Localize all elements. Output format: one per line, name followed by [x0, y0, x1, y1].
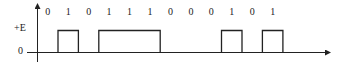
bit-label: 1: [147, 7, 152, 17]
high-level-label: +E: [14, 23, 26, 33]
bit-label: 1: [107, 7, 112, 17]
bit-label: 1: [270, 7, 275, 17]
bit-label: 0: [209, 7, 214, 17]
waveform-diagram: +E 0 010111000101: [0, 0, 341, 66]
signal-waveform: [58, 31, 283, 53]
bit-label: 0: [250, 7, 255, 17]
bit-label: 1: [66, 7, 71, 17]
bit-label: 1: [229, 7, 234, 17]
bit-label: 0: [188, 7, 193, 17]
bit-label: 0: [168, 7, 173, 17]
bit-label: 0: [45, 7, 50, 17]
bit-label: 1: [127, 7, 132, 17]
zero-level-label: 0: [18, 46, 23, 56]
bit-label: 0: [86, 7, 91, 17]
